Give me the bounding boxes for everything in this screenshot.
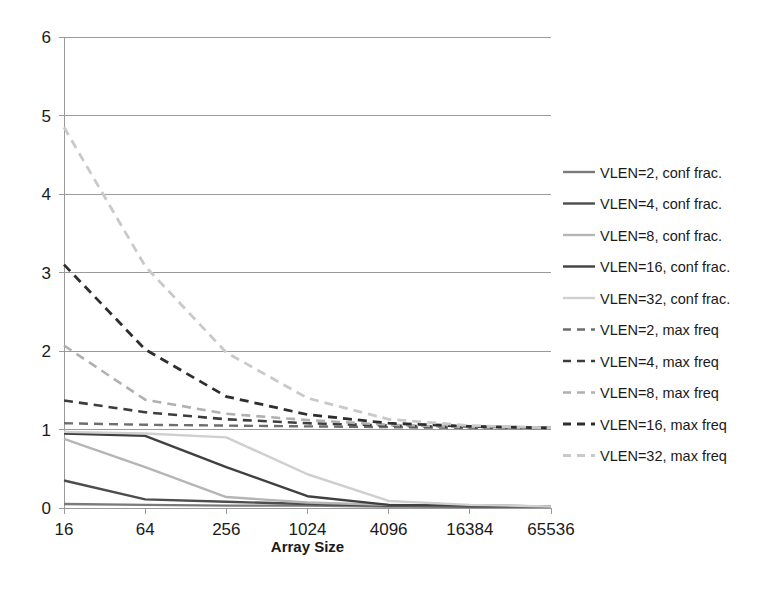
legend-item-3[interactable]: VLEN=16, conf frac. (563, 259, 730, 275)
y-tick-label-6: 6 (42, 28, 51, 47)
series-line-7 (64, 346, 551, 428)
line-chart-figure: 0123456 1664256102440961638465536 Array … (0, 0, 772, 596)
series-line-6 (64, 400, 551, 427)
legend-item-0[interactable]: VLEN=2, conf frac. (563, 165, 722, 181)
legend-label-9: VLEN=32, max freq (600, 448, 727, 464)
y-tick-label-1: 1 (42, 421, 51, 440)
series-line-9 (64, 127, 551, 428)
legend-label-7: VLEN=8, max freq (600, 385, 719, 401)
legend-item-2[interactable]: VLEN=8, conf frac. (563, 228, 722, 244)
legend: VLEN=2, conf frac.VLEN=4, conf frac.VLEN… (563, 165, 730, 465)
legend-label-5: VLEN=2, max freq (600, 322, 719, 338)
y-tick-label-2: 2 (42, 342, 51, 361)
gridlines-group (64, 37, 551, 508)
legend-label-3: VLEN=16, conf frac. (600, 259, 730, 275)
legend-label-8: VLEN=16, max freq (600, 417, 727, 433)
x-tick-label-16384: 16384 (446, 520, 493, 539)
series-line-3 (64, 433, 551, 506)
x-axis-title: Array Size (271, 538, 344, 555)
legend-item-7[interactable]: VLEN=8, max freq (563, 385, 719, 401)
y-tick-label-0: 0 (42, 499, 51, 518)
x-tick-label-64: 64 (136, 520, 155, 539)
x-tick-label-4096: 4096 (370, 520, 408, 539)
y-tick-label-3: 3 (42, 264, 51, 283)
y-tick-label-5: 5 (42, 107, 51, 126)
legend-item-8[interactable]: VLEN=16, max freq (563, 417, 727, 433)
x-tick-label-256: 256 (212, 520, 240, 539)
legend-label-4: VLEN=32, conf frac. (600, 291, 730, 307)
legend-label-1: VLEN=4, conf frac. (600, 196, 722, 212)
legend-item-4[interactable]: VLEN=32, conf frac. (563, 291, 730, 307)
chart-container: 0123456 1664256102440961638465536 Array … (0, 0, 772, 596)
series-line-8 (64, 265, 551, 428)
x-tick-label-1024: 1024 (289, 520, 327, 539)
legend-item-6[interactable]: VLEN=4, max freq (563, 354, 719, 370)
legend-label-6: VLEN=4, max freq (600, 354, 719, 370)
x-tick-label-65536: 65536 (527, 520, 574, 539)
series-group (64, 127, 551, 506)
legend-item-1[interactable]: VLEN=4, conf frac. (563, 196, 722, 212)
x-tick-label-16: 16 (55, 520, 74, 539)
y-axis-tick-labels: 0123456 (42, 28, 51, 518)
legend-item-5[interactable]: VLEN=2, max freq (563, 322, 719, 338)
x-axis-tick-labels: 1664256102440961638465536 (55, 520, 575, 539)
legend-label-0: VLEN=2, conf frac. (600, 165, 722, 181)
y-tick-label-4: 4 (42, 185, 51, 204)
legend-label-2: VLEN=8, conf frac. (600, 228, 722, 244)
legend-item-9[interactable]: VLEN=32, max freq (563, 448, 727, 464)
axes-group (59, 37, 551, 514)
